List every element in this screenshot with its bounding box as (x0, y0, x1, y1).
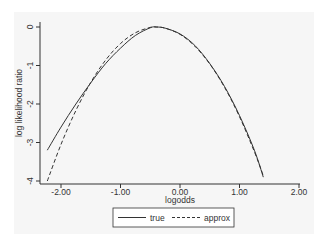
x-tick-label: 1.00 (231, 187, 248, 197)
x-tick-label: 2.00 (291, 187, 308, 197)
legend-true-label: true (150, 213, 165, 223)
y-ticks: 0-1-2-3-4 (25, 24, 40, 184)
series-approx-line (47, 27, 263, 181)
line-chart: 0-1-2-3-4 -2.00-1.000.001.002.00 log lik… (0, 0, 323, 243)
x-axis-label: logodds (165, 195, 195, 205)
y-tick-label: -2 (25, 100, 35, 108)
y-tick-label: -1 (25, 61, 35, 69)
legend: true approx (113, 208, 234, 227)
legend-approx-label: approx (204, 213, 231, 223)
y-axis-label: log likelihood ratio (14, 69, 24, 137)
y-tick-label: -4 (25, 177, 35, 185)
chart-frame: 0-1-2-3-4 -2.00-1.000.001.002.00 log lik… (0, 0, 323, 243)
series-lines (47, 27, 263, 181)
x-tick-label: -2.00 (51, 187, 71, 197)
y-tick-label: -3 (25, 138, 35, 146)
x-tick-label: -1.00 (111, 187, 131, 197)
axes (40, 22, 300, 184)
y-tick-label: 0 (25, 24, 35, 29)
